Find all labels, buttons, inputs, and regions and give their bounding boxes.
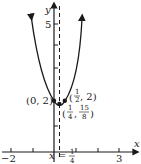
point-half-2 [63, 99, 67, 103]
svg-text:1: 1 [70, 148, 74, 156]
svg-text:8: 8 [82, 113, 86, 121]
point-label-0-2: (0, 2) [26, 95, 53, 106]
svg-text:4: 4 [70, 157, 75, 164]
x-axis [2, 148, 136, 152]
point-label-half-2: ( 1 2 , 2) [69, 88, 97, 104]
svg-text:): ) [90, 108, 94, 119]
parabola-chart: y 5 x −2 3 (0, 2) ( 1 2 , 2) ( 1 4 , 15 … [0, 0, 141, 164]
svg-text:x =: x = [49, 150, 66, 161]
svg-text:, 2): , 2) [80, 91, 97, 102]
vertex-label: ( 1 4 , 15 8 ) [62, 104, 94, 121]
x-tick-3-label: 3 [116, 153, 122, 164]
svg-text:1: 1 [68, 104, 72, 112]
axis-of-symmetry-label: x = 1 4 [49, 148, 75, 164]
y-axis-label: y [44, 4, 51, 15]
svg-text:(: ( [69, 92, 73, 103]
svg-text:(: ( [62, 108, 66, 119]
svg-text:15: 15 [80, 104, 89, 112]
x-axis-label: x [134, 138, 140, 149]
y-axis [54, 5, 58, 162]
svg-text:2: 2 [75, 96, 79, 104]
svg-text:1: 1 [75, 88, 79, 96]
y-tick-5-label: 5 [45, 19, 51, 30]
svg-text:,: , [74, 108, 77, 119]
vertex-point [57, 102, 61, 106]
x-tick-neg2-label: −2 [1, 153, 16, 164]
svg-text:4: 4 [68, 113, 73, 121]
